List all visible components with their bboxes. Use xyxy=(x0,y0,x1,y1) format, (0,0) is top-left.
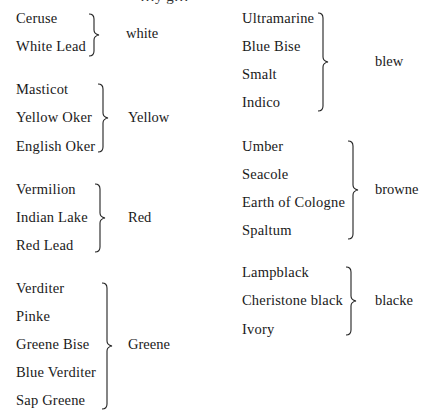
right-brace-icon xyxy=(94,183,108,253)
right-brace-icon xyxy=(88,13,102,57)
pigment-item: Spaltum xyxy=(242,221,292,239)
pigment-item: Ceruse xyxy=(16,9,57,27)
color-category-label: blew xyxy=(375,52,403,70)
pigment-item: Smalt xyxy=(242,65,277,83)
pigment-item: Ultramarine xyxy=(242,9,314,27)
color-category-label: browne xyxy=(375,180,419,198)
pigment-item: Blue Bise xyxy=(242,37,301,55)
pigment-item: White Lead xyxy=(16,37,86,55)
pigment-item: Indico xyxy=(242,93,280,111)
pigment-item: Seacole xyxy=(242,165,289,183)
pigment-item: Red Lead xyxy=(16,236,74,254)
right-brace-icon xyxy=(101,282,115,410)
pigment-item: Umber xyxy=(242,137,283,155)
pigment-item: Sap Greene xyxy=(16,391,85,409)
color-category-label: Greene xyxy=(128,335,170,353)
pigment-item: Pinke xyxy=(16,307,50,325)
pigment-item: English Oker xyxy=(16,137,95,155)
pigment-item: Lampblack xyxy=(242,263,309,281)
pigment-item: Ivory xyxy=(242,320,274,338)
right-brace-icon xyxy=(317,12,331,112)
pigment-item: Yellow Oker xyxy=(16,108,92,126)
pigment-item: Indian Lake xyxy=(16,208,88,226)
pigment-item: Masticot xyxy=(16,80,68,98)
right-brace-icon xyxy=(97,83,111,153)
right-brace-icon xyxy=(345,266,359,336)
pigment-item: Cheristone black xyxy=(242,291,343,309)
pigment-item: Vermilion xyxy=(16,180,76,198)
pigment-item: Earth of Cologne xyxy=(242,193,345,211)
right-brace-icon xyxy=(347,140,361,240)
color-category-label: blacke xyxy=(375,291,413,309)
color-category-label: Red xyxy=(128,208,151,226)
color-category-label: Yellow xyxy=(128,108,169,126)
pigment-item: Blue Verditer xyxy=(16,363,96,381)
clipped-heading-text: …y g… xyxy=(140,0,189,5)
pigment-item: Verditer xyxy=(16,279,64,297)
color-category-label: white xyxy=(126,24,158,42)
pigment-item: Greene Bise xyxy=(16,335,89,353)
